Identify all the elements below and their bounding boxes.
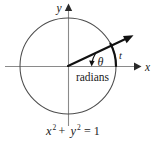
theta-arc-arrowhead <box>89 61 95 67</box>
theta-label: θ <box>98 55 104 69</box>
equation-x-base: x <box>45 124 52 138</box>
equation-equals-one: = 1 <box>84 124 100 138</box>
y-axis-label: y <box>55 2 62 15</box>
unit-circle-figure: y x θ t radians x 2 + y 2 = 1 <box>0 0 157 145</box>
equation-x-exponent: 2 <box>53 123 57 132</box>
equation-y-exponent: 2 <box>77 123 81 132</box>
axes-group <box>5 4 142 127</box>
equation-y-base: y <box>69 124 77 138</box>
arc-length-t <box>110 44 116 66</box>
arc-label-t: t <box>119 50 123 61</box>
x-axis-arrowhead <box>134 63 142 71</box>
figure-canvas: y x θ t radians x 2 + y 2 = 1 <box>0 0 157 145</box>
circle-equation: x 2 + y 2 = 1 <box>45 123 100 139</box>
equation-plus: + <box>59 124 66 138</box>
radians-label: radians <box>76 71 110 83</box>
y-axis-arrowhead <box>65 4 72 12</box>
x-axis-label: x <box>144 61 151 73</box>
